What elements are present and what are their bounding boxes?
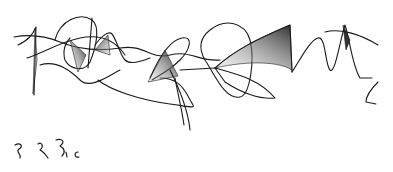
annotation-squiggles [15,139,79,158]
scribble-drawing: Abstract pen scribble drawing with shade… [0,0,393,172]
scribble-svg [0,0,393,172]
right-lobes [180,23,378,104]
left-cluster [14,17,220,95]
